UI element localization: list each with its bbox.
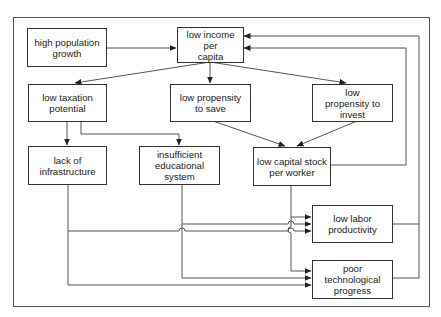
node-label: insufficient educational system [155,149,204,182]
node-low-taxation-potential: low taxation potential [28,84,107,122]
diagram-canvas: high population growth low income per ca… [0,0,441,317]
node-low-propensity-to-invest: low propensity to invest [312,84,393,122]
node-label: low propensity to save [180,92,241,114]
node-low-labor-productivity: low labor productivity [312,205,393,243]
node-lack-of-infrastructure: lack of infrastructure [28,146,107,185]
edge-capital-labor [291,185,311,217]
node-low-income-per-capita: low income per capita [177,27,244,63]
node-insufficient-educational-system: insufficient educational system [139,146,220,185]
node-low-propensity-to-save: low propensity to save [170,84,251,122]
node-poor-technological-progress: poor technological progress [312,260,393,299]
node-label: low income per capita [180,29,241,62]
edge-capital-tech [288,217,311,271]
node-label: low propensity to invest [325,87,380,120]
node-high-population-growth: high population growth [27,28,107,67]
node-label: low labor productivity [328,213,377,235]
edge-save-capital [213,121,285,146]
edge-tax-edu [81,121,179,145]
node-label: low taxation potential [42,92,93,114]
edge-infra-tech [68,231,311,285]
node-label: low capital stock per worker [257,156,327,178]
node-label: high population growth [34,37,99,59]
edge-invest-capital [297,121,357,146]
edge-edu-labor [182,184,311,224]
edge-edu-tech [182,224,311,278]
node-label: poor technological progress [315,263,390,296]
node-label: lack of infrastructure [40,155,96,177]
node-low-capital-stock-per-worker: low capital stock per worker [253,147,331,186]
edge-income-invest [210,62,346,83]
